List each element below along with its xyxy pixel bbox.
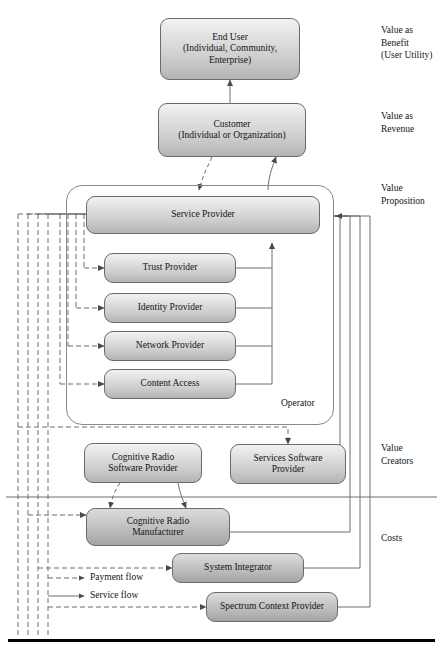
side-label-value-as-revenue: Value as Revenue bbox=[381, 110, 414, 135]
node-content-access: Content Access bbox=[104, 369, 236, 399]
system-integrator-label: System Integrator bbox=[204, 562, 272, 574]
node-system-integrator: System Integrator bbox=[172, 553, 304, 583]
content-access-label: Content Access bbox=[141, 378, 200, 390]
wire-cr-manufacturer-payment-to-cr-software bbox=[110, 483, 120, 508]
node-customer: Customer (Individual or Organization) bbox=[158, 103, 306, 157]
bottom-rule bbox=[8, 639, 435, 642]
node-end-user: End User (Individual, Community, Enterpr… bbox=[160, 18, 300, 80]
service-provider-label: Service Provider bbox=[171, 209, 235, 221]
legend-payment-flow-label: Payment flow bbox=[90, 571, 143, 583]
operator-group-label: Operator bbox=[281, 398, 315, 408]
side-label-value-creators: Value Creators bbox=[381, 442, 413, 467]
wire-payment-to-services-software-provider bbox=[18, 427, 288, 444]
customer-line-2: (Individual or Organization) bbox=[178, 130, 285, 142]
side-label-value-as-benefit: Value as Benefit (User Utility) bbox=[381, 24, 432, 62]
legend-service-flow-label: Service flow bbox=[90, 589, 138, 601]
cr-software-provider-line-2: Software Provider bbox=[108, 463, 177, 475]
end-user-line-1: End User bbox=[183, 32, 277, 44]
wire-spectrum-context-to-service-provider bbox=[338, 216, 370, 607]
node-trust-provider: Trust Provider bbox=[104, 253, 236, 283]
cr-software-provider-line-1: Cognitive Radio bbox=[108, 452, 177, 464]
spectrum-context-provider-label: Spectrum Context Provider bbox=[220, 601, 324, 613]
cr-manufacturer-line-2: Manufacturer bbox=[127, 527, 190, 539]
trust-provider-label: Trust Provider bbox=[143, 262, 198, 274]
node-service-provider: Service Provider bbox=[86, 196, 320, 234]
value-network-diagram: End User (Individual, Community, Enterpr… bbox=[0, 0, 443, 649]
services-software-provider-line-2: Provider bbox=[254, 464, 323, 476]
end-user-line-3: Enterprise) bbox=[183, 55, 277, 67]
node-identity-provider: Identity Provider bbox=[104, 293, 236, 323]
side-label-value-proposition: Value Proposition bbox=[381, 182, 425, 207]
side-label-costs: Costs bbox=[381, 532, 402, 545]
node-cognitive-radio-software-provider: Cognitive Radio Software Provider bbox=[84, 443, 202, 483]
node-services-software-provider: Services Software Provider bbox=[230, 444, 346, 484]
network-provider-label: Network Provider bbox=[136, 340, 204, 352]
node-cognitive-radio-manufacturer: Cognitive Radio Manufacturer bbox=[86, 508, 230, 546]
wire-cr-software-service-to-cr-manufacturer bbox=[178, 483, 186, 508]
identity-provider-label: Identity Provider bbox=[138, 302, 203, 314]
services-software-provider-line-1: Services Software bbox=[254, 453, 323, 465]
customer-line-1: Customer bbox=[178, 119, 285, 131]
cr-manufacturer-line-1: Cognitive Radio bbox=[127, 516, 190, 528]
node-spectrum-context-provider: Spectrum Context Provider bbox=[206, 592, 338, 622]
end-user-line-2: (Individual, Community, bbox=[183, 43, 277, 55]
node-network-provider: Network Provider bbox=[104, 331, 236, 361]
